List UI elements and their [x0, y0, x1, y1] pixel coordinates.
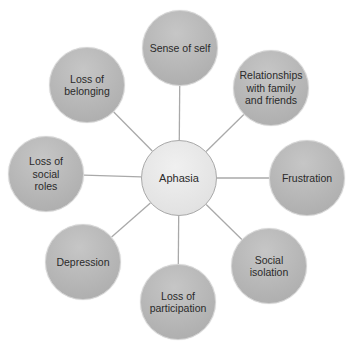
node-label: Frustration	[282, 172, 332, 185]
node-label: Sense of self	[150, 42, 211, 55]
node-label: Relationships with family and friends	[239, 69, 302, 107]
node-loss-of-social-roles: Loss of social roles	[8, 136, 84, 212]
connector-social-isolation	[206, 205, 242, 240]
connector-loss-of-social-roles	[84, 175, 141, 177]
node-relationships: Relationships with family and friends	[233, 50, 309, 126]
node-label: Loss of participation	[150, 290, 207, 315]
node-sense-of-self: Sense of self	[142, 10, 218, 86]
node-loss-of-belonging: Loss of belonging	[49, 47, 125, 123]
center-node-label: Aphasia	[159, 172, 199, 185]
node-depression: Depression	[45, 224, 121, 300]
center-node-aphasia: Aphasia	[141, 140, 217, 216]
connector-relationships	[206, 115, 244, 152]
node-label: Depression	[56, 256, 109, 269]
node-label: Social isolation	[250, 254, 289, 279]
node-loss-of-participation: Loss of participation	[140, 264, 216, 340]
node-label: Loss of belonging	[64, 73, 110, 98]
node-frustration: Frustration	[269, 140, 345, 216]
connector-loss-of-belonging	[114, 112, 153, 151]
node-label: Loss of social roles	[15, 155, 77, 193]
connector-depression	[112, 203, 151, 237]
node-social-isolation: Social isolation	[231, 228, 307, 304]
